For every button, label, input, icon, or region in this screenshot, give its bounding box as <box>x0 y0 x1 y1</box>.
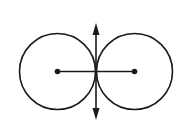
left-center-dot <box>55 69 61 75</box>
tangent-circles-diagram <box>0 0 187 128</box>
arrow-up-icon <box>93 23 100 35</box>
arrow-down-icon <box>93 108 100 120</box>
right-center-dot <box>132 69 138 75</box>
